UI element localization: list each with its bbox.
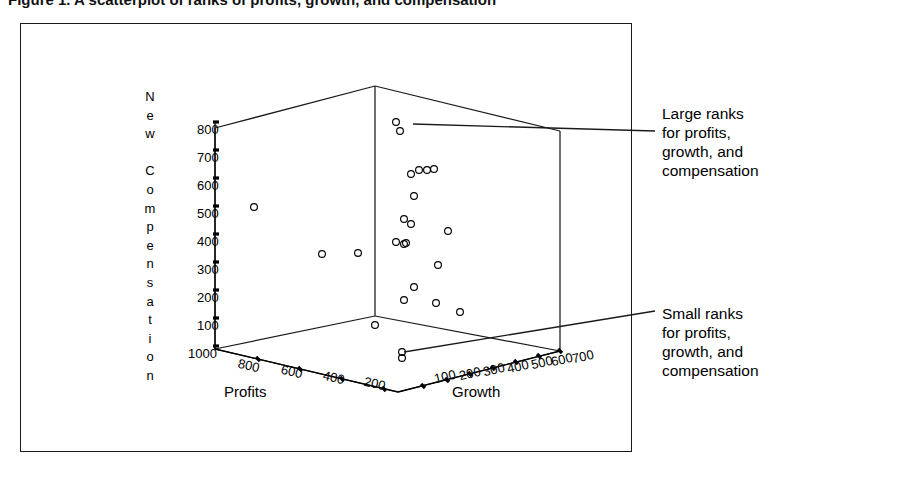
compensation-tick-label: 500 — [197, 206, 219, 221]
data-point — [411, 193, 418, 200]
data-point — [393, 119, 400, 126]
compensation-axis-title-letter: n — [143, 255, 157, 274]
data-point — [251, 204, 258, 211]
cube-floor-left — [215, 316, 375, 349]
cube-top-right-edge — [375, 86, 560, 131]
compensation-axis-title-letter: n — [143, 367, 157, 386]
annotation-large-ranks: Large ranks for profits, growth, and com… — [662, 104, 759, 180]
compensation-tick-label: 600 — [197, 178, 219, 193]
compensation-axis-title: New Compensation — [143, 88, 157, 386]
annotation-leader-lines — [404, 124, 655, 352]
cube-wireframe — [215, 86, 560, 392]
compensation-axis-title-letter: i — [143, 330, 157, 349]
data-point — [372, 322, 379, 329]
data-point — [401, 216, 408, 223]
data-point — [401, 297, 408, 304]
data-point — [431, 166, 438, 173]
data-point — [435, 262, 442, 269]
compensation-axis-title-letter: e — [143, 237, 157, 256]
compensation-axis-title-letter: t — [143, 311, 157, 330]
data-point — [319, 251, 326, 258]
compensation-axis-title-letter: C — [143, 162, 157, 181]
cube-floor-right — [375, 316, 560, 351]
data-point — [408, 171, 415, 178]
compensation-axis-title-letter — [143, 144, 157, 163]
growth-axis-title: Growth — [452, 383, 500, 400]
data-point — [416, 167, 423, 174]
data-point — [408, 221, 415, 228]
data-point-group — [251, 119, 464, 362]
compensation-tick-label: 400 — [197, 234, 219, 249]
compensation-axis-title-letter: a — [143, 293, 157, 312]
compensation-tick-label: 200 — [197, 290, 219, 305]
compensation-axis-title-letter: N — [143, 88, 157, 107]
compensation-axis-title-letter: o — [143, 348, 157, 367]
scatterplot-3d — [0, 0, 899, 480]
data-point — [433, 300, 440, 307]
cube-top-left-edge — [215, 86, 375, 128]
compensation-tick-label: 700 — [197, 150, 219, 165]
compensation-axis-title-letter: w — [143, 125, 157, 144]
compensation-tick-label: 800 — [197, 122, 219, 137]
compensation-tick-label: 100 — [197, 318, 219, 333]
data-point — [424, 167, 431, 174]
compensation-axis-title-letter: p — [143, 218, 157, 237]
annotation-small-ranks: Small ranks for profits, growth, and com… — [662, 304, 759, 380]
data-point — [355, 250, 362, 257]
figure-container: Figure 1. A scatterplot of ranks of prof… — [0, 0, 899, 480]
data-point — [457, 309, 464, 316]
data-point — [397, 128, 404, 135]
compensation-axis-title-letter: s — [143, 274, 157, 293]
data-point — [411, 284, 418, 291]
data-point — [393, 239, 400, 246]
profits-axis-title: Profits — [224, 383, 267, 400]
compensation-axis-title-letter: o — [143, 181, 157, 200]
compensation-axis-title-letter: e — [143, 107, 157, 126]
data-point — [445, 228, 452, 235]
compensation-tick-label: 300 — [197, 262, 219, 277]
compensation-tick-label: 1000 — [188, 346, 217, 361]
compensation-axis-title-letter: m — [143, 200, 157, 219]
